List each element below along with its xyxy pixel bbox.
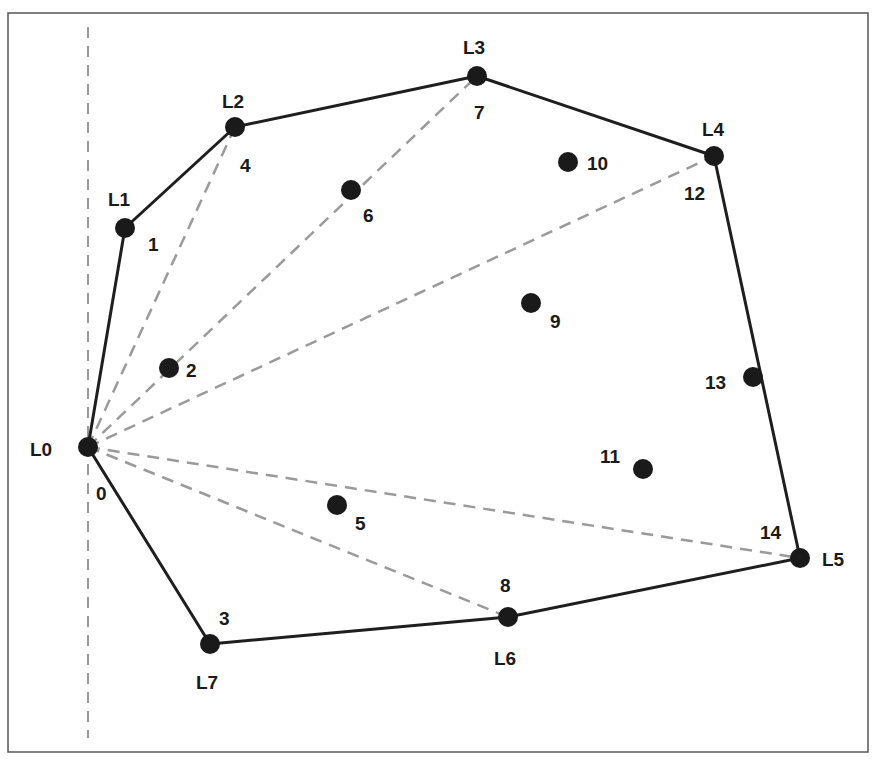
point-label-0: 0 [96, 483, 107, 504]
hull-label-l0: L0 [30, 439, 52, 460]
point-14 [790, 548, 810, 568]
point-index-labels: 01234567891011121314 [96, 102, 782, 629]
point-label-3: 3 [219, 608, 230, 629]
point-label-10: 10 [587, 153, 608, 174]
point-label-13: 13 [705, 372, 726, 393]
point-5 [327, 495, 347, 515]
dashed-ray [88, 156, 714, 447]
point-label-2: 2 [186, 360, 197, 381]
point-label-11: 11 [600, 446, 621, 467]
point-2 [159, 358, 179, 378]
point-12 [704, 146, 724, 166]
point-8 [498, 607, 518, 627]
figure-frame [8, 13, 868, 752]
convex-hull-diagram: 01234567891011121314 L0L1L2L3L4L5L6L7 [0, 0, 874, 762]
point-label-1: 1 [148, 234, 159, 255]
point-label-12: 12 [684, 183, 705, 204]
hull-vertex-labels: L0L1L2L3L4L5L6L7 [30, 37, 845, 693]
dashed-ray [88, 447, 508, 617]
hull-label-l7: L7 [196, 672, 218, 693]
hull-label-l3: L3 [463, 37, 485, 58]
point-11 [633, 459, 653, 479]
point-0 [78, 437, 98, 457]
point-label-9: 9 [550, 311, 561, 332]
dashed-ray [88, 127, 235, 447]
point-label-4: 4 [240, 155, 251, 176]
hull-label-l1: L1 [108, 189, 131, 210]
point-13 [743, 367, 763, 387]
point-4 [225, 117, 245, 137]
hull-label-l6: L6 [494, 648, 516, 669]
point-1 [115, 218, 135, 238]
point-label-8: 8 [500, 575, 511, 596]
dashed-rays [88, 76, 800, 617]
point-9 [521, 293, 541, 313]
hull-label-l5: L5 [822, 549, 845, 570]
point-label-14: 14 [760, 522, 782, 543]
point-7 [467, 66, 487, 86]
hull-label-l2: L2 [222, 91, 244, 112]
point-label-7: 7 [474, 102, 485, 123]
point-label-5: 5 [355, 513, 366, 534]
point-label-6: 6 [363, 205, 374, 226]
point-3 [200, 634, 220, 654]
hull-label-l4: L4 [702, 119, 725, 140]
point-6 [341, 180, 361, 200]
dashed-ray [88, 76, 477, 447]
dashed-ray [88, 447, 800, 558]
point-10 [558, 152, 578, 172]
